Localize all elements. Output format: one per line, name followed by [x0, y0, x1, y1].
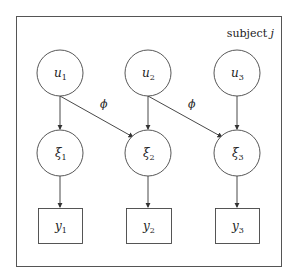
node-y2: y2: [127, 209, 172, 244]
node-u3: u3: [214, 50, 260, 96]
edge-label-phi-2: ϕ: [188, 98, 196, 111]
graphical-model-diagram: subject j ϕ ϕ u1 u2 u3 ξ1 ξ2 ξ3: [0, 0, 295, 280]
edge-u1-xi2: [60, 96, 133, 137]
node-y3: y3: [216, 209, 260, 244]
node-u2: u2: [125, 50, 171, 96]
edge-u2-xi3: [148, 96, 222, 137]
node-xi1: ξ1: [37, 130, 83, 176]
node-xi2: ξ2: [125, 130, 171, 176]
node-xi3: ξ3: [214, 130, 260, 176]
node-u1: u1: [37, 50, 83, 96]
plate-label: subject j: [227, 27, 275, 40]
node-y1: y1: [39, 209, 83, 244]
edge-label-phi-1: ϕ: [100, 98, 108, 111]
